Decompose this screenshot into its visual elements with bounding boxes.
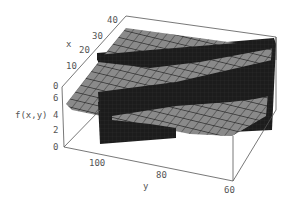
y-axis-ticks: 100 80 60	[89, 158, 235, 195]
y-tick: 60	[224, 185, 235, 195]
z-tick: 6	[53, 93, 58, 103]
x-tick: 10	[66, 61, 77, 71]
x-axis-label: x	[66, 39, 72, 49]
y-tick: 80	[156, 170, 167, 180]
z-tick: 2	[53, 125, 58, 135]
y-axis-label: y	[143, 181, 149, 191]
z-axis-ticks: 6 4 2 0	[53, 93, 58, 152]
z-tick: 0	[53, 142, 58, 152]
3d-surface-plot: 40 30 20 10 0 x 6 4 2 0 f(x,y) 100 80 60…	[0, 0, 292, 204]
x-tick: 20	[79, 45, 90, 55]
z-tick: 4	[53, 110, 58, 120]
x-tick: 30	[92, 31, 103, 41]
y-tick: 100	[89, 158, 105, 168]
x-tick: 0	[53, 81, 58, 91]
x-tick: 40	[107, 15, 118, 25]
z-axis-label: f(x,y)	[15, 110, 48, 120]
